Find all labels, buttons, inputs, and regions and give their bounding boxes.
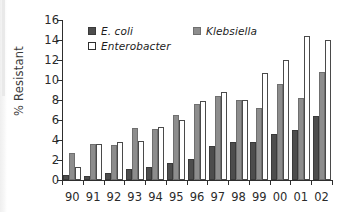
bar-group xyxy=(292,20,310,180)
x-tick-mark xyxy=(145,180,146,185)
legend-row-2: Enterobacter xyxy=(88,40,268,55)
y-tick-label: 16 xyxy=(44,13,59,27)
bar-group xyxy=(271,20,289,180)
x-axis-line xyxy=(62,180,332,181)
x-tick-mark xyxy=(270,180,271,185)
bar xyxy=(75,167,81,180)
y-tick-label: 12 xyxy=(44,53,59,67)
bar-group xyxy=(63,20,81,180)
x-tick-label: 01 xyxy=(294,190,309,204)
x-tick-mark xyxy=(249,180,250,185)
x-tick-mark xyxy=(166,180,167,185)
legend-item-klebsiella: Klebsiella xyxy=(193,25,257,37)
bar xyxy=(325,40,331,180)
legend-label-enterobacter: Enterobacter xyxy=(101,40,171,52)
x-tick-mark xyxy=(62,180,63,185)
bar xyxy=(96,144,102,180)
x-tick-label: 92 xyxy=(107,190,122,204)
x-tick-mark xyxy=(187,180,188,185)
bar xyxy=(200,101,206,181)
page-edge-artifact-inner xyxy=(2,0,5,96)
x-tick-mark xyxy=(332,180,333,185)
y-tick-label: 10 xyxy=(44,73,59,87)
x-tick-label: 91 xyxy=(86,190,101,204)
bar xyxy=(158,127,164,180)
y-tick-label: 4 xyxy=(52,133,59,147)
bar xyxy=(221,92,227,180)
x-tick-mark xyxy=(228,180,229,185)
x-tick-label: 00 xyxy=(273,190,288,204)
x-tick-label: 94 xyxy=(148,190,163,204)
x-tick-mark xyxy=(83,180,84,185)
x-tick-label: 02 xyxy=(314,190,329,204)
y-tick-label: 14 xyxy=(44,33,59,47)
bar xyxy=(242,100,248,180)
x-tick-label: 93 xyxy=(127,190,142,204)
bar xyxy=(179,120,185,180)
x-tick-label: 97 xyxy=(210,190,225,204)
y-axis-title: % Resistant xyxy=(12,26,26,136)
legend-label-e-coli: E. coli xyxy=(101,25,133,37)
x-tick-mark xyxy=(311,180,312,185)
x-tick-mark xyxy=(290,180,291,185)
y-tick-label: 0 xyxy=(52,173,59,187)
bar xyxy=(304,36,310,180)
legend-swatch-klebsiella-icon xyxy=(193,27,201,35)
legend-item-e-coli: E. coli xyxy=(88,25,133,37)
legend-swatch-e-coli-icon xyxy=(88,27,96,35)
bar xyxy=(283,60,289,180)
x-tick-label: 98 xyxy=(231,190,246,204)
bar xyxy=(262,73,268,180)
y-tick-label: 2 xyxy=(52,153,59,167)
x-tick-label: 96 xyxy=(190,190,205,204)
legend-label-klebsiella: Klebsiella xyxy=(206,25,257,37)
bar xyxy=(117,142,123,180)
x-tick-mark xyxy=(124,180,125,185)
x-tick-label: 95 xyxy=(169,190,184,204)
bar xyxy=(138,141,144,180)
x-tick-label: 99 xyxy=(252,190,267,204)
x-tick-mark xyxy=(104,180,105,185)
chart-figure: % Resistant 0246810121416 90919293949596… xyxy=(0,0,338,212)
legend-row-1: E. coli Klebsiella xyxy=(88,25,268,40)
legend-swatch-enterobacter-icon xyxy=(88,42,96,50)
y-tick-label: 8 xyxy=(52,93,59,107)
bar-group xyxy=(313,20,331,180)
chart-legend: E. coli Klebsiella Enterobacter xyxy=(88,25,268,55)
x-tick-label: 90 xyxy=(65,190,80,204)
legend-item-enterobacter: Enterobacter xyxy=(88,40,171,52)
x-tick-mark xyxy=(207,180,208,185)
y-tick-label: 6 xyxy=(52,113,59,127)
